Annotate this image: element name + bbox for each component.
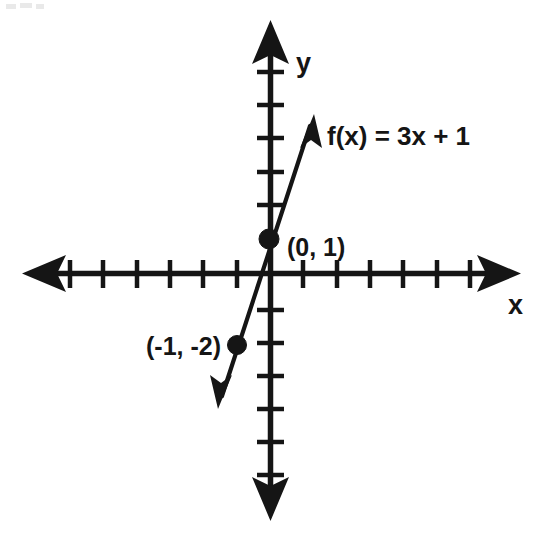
- point-label-second-point: (-1, -2): [146, 332, 221, 360]
- function-line-down-arrow-icon: [210, 375, 232, 409]
- point-marker-y-intercept: [259, 229, 279, 249]
- coordinate-plane-svg: y x f(x) = 3x + 1 (0, 1) (-1, -2): [0, 0, 543, 535]
- x-axis-label: x: [508, 290, 523, 320]
- scan-artifacts: [6, 3, 44, 9]
- point-marker-second-point: [228, 336, 247, 355]
- y-axis-label: y: [296, 48, 311, 78]
- function-line-up-arrow-icon: [300, 114, 322, 148]
- graph-figure: y x f(x) = 3x + 1 (0, 1) (-1, -2): [0, 0, 543, 535]
- point-label-y-intercept: (0, 1): [287, 233, 345, 261]
- function-equation-label: f(x) = 3x + 1: [327, 121, 470, 151]
- y-axis: [252, 20, 289, 521]
